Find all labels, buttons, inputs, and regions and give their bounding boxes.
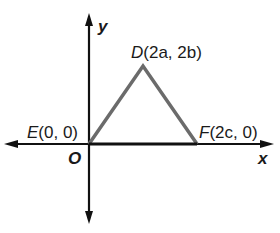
- point-e-coords: (0, 0): [38, 123, 78, 142]
- point-label-e: E(0, 0): [27, 123, 78, 142]
- y-axis: [85, 13, 93, 224]
- point-f-coords: (2c, 0): [209, 123, 257, 142]
- svg-text:D(2a, 2b): D(2a, 2b): [131, 43, 202, 62]
- svg-text:F(2c, 0): F(2c, 0): [199, 123, 258, 142]
- point-d-coords: (2a, 2b): [143, 43, 202, 62]
- triangle-edf: [89, 66, 197, 144]
- svg-text:E(0, 0): E(0, 0): [27, 123, 78, 142]
- coordinate-diagram: y x O D(2a, 2b) E(0, 0) F(2c, 0): [0, 0, 280, 233]
- point-label-d: D(2a, 2b): [131, 43, 202, 62]
- point-label-f: F(2c, 0): [199, 123, 258, 142]
- y-axis-down-arrow-icon: [85, 211, 93, 224]
- point-d-name: D: [131, 43, 143, 62]
- x-axis-label: x: [257, 149, 269, 168]
- point-e-name: E: [27, 123, 39, 142]
- x-axis-right-arrow-icon: [260, 140, 274, 148]
- x-axis-left-arrow-icon: [4, 140, 18, 148]
- origin-label: O: [68, 149, 81, 168]
- y-axis-up-arrow-icon: [85, 13, 93, 26]
- y-axis-label: y: [97, 17, 109, 36]
